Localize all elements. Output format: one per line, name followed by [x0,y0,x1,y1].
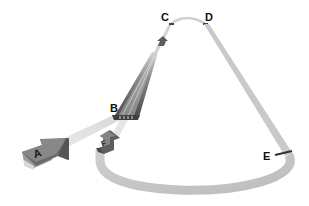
edge-d-to-e [204,24,293,156]
flow-loop-diagram: F A B C D E [0,0,309,206]
edge-channel-to-c [154,24,172,52]
label-b: B [110,102,118,114]
c-marker [169,23,174,25]
channel-base-b [112,115,140,120]
node-a-arrow: A [22,138,69,170]
small-arrow-icon [157,36,168,46]
edge-e-to-f-loop [100,150,290,190]
edge-c-to-d-arch [169,18,208,25]
label-d: D [205,11,213,23]
label-e: E [263,150,270,162]
label-c: C [161,11,169,23]
channel-b-to-c [112,52,158,120]
